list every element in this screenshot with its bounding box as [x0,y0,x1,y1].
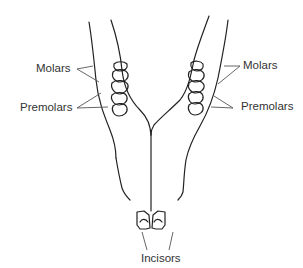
left-jaw-outer-line [89,22,116,158]
right-molars-leader [218,66,240,84]
label-left-premolars: Premolars [20,102,72,114]
left-premolars-leader [77,93,108,108]
left-lower-jaw-line [116,158,130,200]
right-molars-teeth [188,61,204,115]
incisor-teeth [137,211,165,229]
label-right-molars: Molars [243,60,278,72]
label-incisors: Incisors [141,253,181,265]
label-left-molars: Molars [36,63,71,75]
label-right-premolars: Premolars [241,101,293,113]
jaw-drawing [0,0,303,268]
right-jaw-inner-line [151,16,209,135]
right-premolars-leader [211,96,233,108]
incisors-leader [142,232,173,250]
jaw-diagram: Molars Premolars Molars Premolars Inciso… [0,0,303,268]
left-molars-teeth [111,62,128,116]
left-jaw-inner-line [111,20,151,135]
